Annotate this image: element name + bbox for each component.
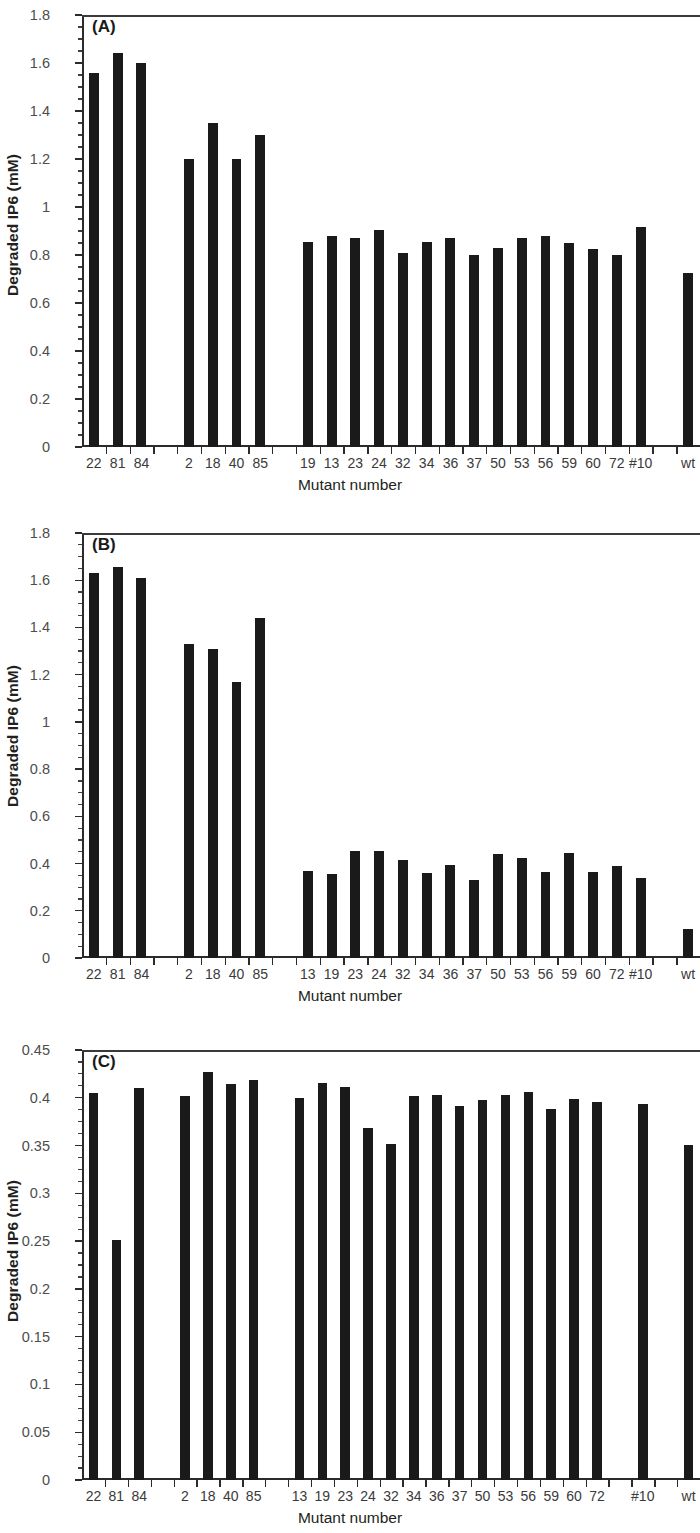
- y-minor-tick: [78, 1360, 82, 1361]
- bar: [684, 1145, 694, 1480]
- bar: [445, 238, 455, 447]
- y-minor-tick: [78, 182, 82, 183]
- x-tick: [629, 958, 630, 965]
- x-tick: [177, 447, 178, 454]
- y-minor-tick: [78, 1229, 82, 1230]
- x-tick-label: 23: [348, 966, 364, 982]
- y-axis-line: [82, 1050, 84, 1480]
- x-tick-label: 85: [252, 966, 268, 982]
- y-minor-tick: [78, 1169, 82, 1170]
- y-minor-tick: [78, 603, 82, 604]
- bar: [318, 1083, 328, 1481]
- bar: [422, 242, 432, 447]
- y-minor-tick: [78, 434, 82, 435]
- x-tick: [177, 958, 178, 965]
- y-major-tick: [75, 1145, 82, 1146]
- panel-c: Degraded IP6 (mM) 00.050.10.150.20.250.3…: [0, 1022, 700, 1533]
- y-minor-tick: [78, 745, 82, 746]
- bar: [303, 242, 313, 447]
- y-tick-label: 0.45: [22, 1042, 50, 1058]
- panel-c-x-axis-title: Mutant number: [0, 1509, 700, 1527]
- x-tick-label: 37: [466, 966, 482, 982]
- x-tick-label: 37: [452, 1488, 468, 1504]
- bar: [136, 578, 146, 958]
- y-tick-label: 0.2: [30, 391, 50, 407]
- x-tick: [153, 447, 154, 454]
- y-axis-line: [82, 533, 84, 958]
- x-tick-label: 40: [229, 966, 245, 982]
- y-minor-tick: [78, 122, 82, 123]
- x-tick: [106, 447, 107, 454]
- x-tick-label: 18: [200, 1488, 216, 1504]
- y-minor-tick: [78, 374, 82, 375]
- x-tick: [462, 447, 463, 454]
- bar: [350, 851, 360, 958]
- bar: [683, 273, 693, 447]
- x-tick: [581, 447, 582, 454]
- panel-c-y-tick-labels: 00.050.10.150.20.250.30.350.40.45: [0, 1022, 50, 1480]
- y-minor-tick: [78, 1348, 82, 1349]
- y-minor-tick: [78, 242, 82, 243]
- y-tick-label: 1.2: [30, 151, 50, 167]
- y-tick-label: 0.25: [22, 1233, 50, 1249]
- x-tick-label: 19: [315, 1488, 331, 1504]
- y-minor-tick: [78, 875, 82, 876]
- x-tick: [557, 958, 558, 965]
- x-tick: [471, 1480, 472, 1487]
- y-tick-label: 1.4: [30, 619, 50, 635]
- y-major-tick: [75, 1336, 82, 1337]
- x-tick: [225, 958, 226, 965]
- x-tick: [425, 1480, 426, 1487]
- bar: [588, 249, 598, 447]
- bar: [374, 230, 384, 447]
- y-minor-tick: [78, 591, 82, 592]
- bar: [232, 682, 242, 958]
- x-tick-label: 32: [383, 1488, 399, 1504]
- bar: [386, 1144, 396, 1480]
- x-tick-label: 81: [110, 455, 126, 471]
- panel-a-plot-area: [82, 15, 700, 447]
- x-tick-label: 34: [419, 966, 435, 982]
- bar: [588, 872, 598, 958]
- x-tick: [654, 1480, 655, 1487]
- x-tick: [486, 958, 487, 965]
- x-tick-label: 85: [246, 1488, 262, 1504]
- y-minor-tick: [78, 686, 82, 687]
- x-tick: [534, 958, 535, 965]
- panel-b-x-tick-labels: 2281842184085131923243234363750535659607…: [82, 966, 700, 986]
- y-minor-tick: [78, 757, 82, 758]
- y-minor-tick: [78, 1324, 82, 1325]
- bar: [184, 644, 194, 958]
- x-tick: [517, 1480, 518, 1487]
- y-minor-tick: [78, 828, 82, 829]
- x-tick: [581, 958, 582, 965]
- x-tick-label: 36: [443, 455, 459, 471]
- bar: [398, 860, 408, 958]
- x-tick: [343, 958, 344, 965]
- x-tick-label: 56: [521, 1488, 537, 1504]
- x-tick-label: 84: [134, 966, 150, 982]
- bar: [638, 1104, 648, 1480]
- bar: [363, 1128, 373, 1480]
- plot-top-border: [82, 1050, 700, 1052]
- y-minor-tick: [78, 851, 82, 852]
- x-tick: [334, 1480, 335, 1487]
- bar: [113, 53, 123, 447]
- x-tick-label: #10: [629, 966, 652, 982]
- bar: [327, 236, 337, 447]
- y-minor-tick: [78, 98, 82, 99]
- x-tick: [676, 447, 677, 454]
- y-major-tick: [75, 532, 82, 533]
- bar: [409, 1096, 419, 1480]
- bar: [208, 123, 218, 447]
- y-minor-tick: [78, 1157, 82, 1158]
- y-minor-tick: [78, 194, 82, 195]
- y-minor-tick: [78, 887, 82, 888]
- y-tick-label: 0.6: [30, 295, 50, 311]
- x-tick-label: 59: [543, 1488, 559, 1504]
- x-tick: [557, 447, 558, 454]
- y-minor-tick: [78, 74, 82, 75]
- y-minor-tick: [78, 1444, 82, 1445]
- y-tick-label: 1.2: [30, 667, 50, 683]
- y-major-tick: [75, 302, 82, 303]
